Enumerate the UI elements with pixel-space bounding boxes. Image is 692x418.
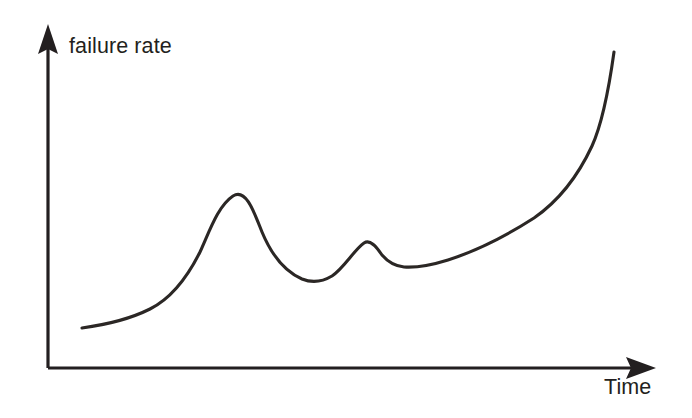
y-axis-label: failure rate [69, 36, 172, 58]
x-axis-label: Time [604, 377, 651, 399]
failure-rate-curve [82, 52, 614, 328]
diagram-canvas [0, 0, 692, 418]
failure-rate-diagram: failure rate Time [0, 0, 692, 418]
